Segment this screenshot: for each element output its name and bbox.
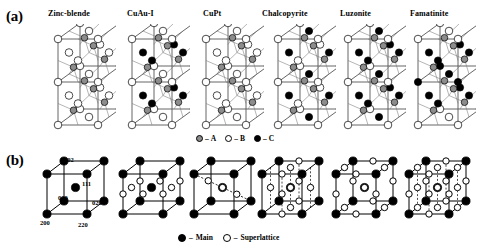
column-title-luzonite: Luzonite [340,9,371,18]
structure-cell-luzonite [336,24,406,134]
legend-a-item-b: – B [225,134,245,143]
column-title-chalcopyrite: Chalcopyrite [262,9,308,18]
reciprocal-cell-cuau-i [114,156,188,226]
structure-cell-chalcopyrite [266,24,336,134]
legend-b-label-main: Main [196,233,213,242]
miller-label-002: 002 [64,156,74,163]
legend-a-item-a: – A [196,134,216,143]
legend-a-item-c: – C [254,134,274,143]
miller-label-220: 220 [78,221,88,228]
legend-panel-a: – A – B – C [196,134,274,143]
legend-a-dash-c: – [263,134,267,143]
open-circle-icon [223,234,231,242]
miller-label-111: 111 [82,180,91,187]
panel-a-label: (a) [6,8,23,25]
structure-cell-cuau-i [120,24,190,134]
legend-a-label-a: A [211,134,216,143]
column-title-zinc-blende: Zinc-blende [48,9,90,18]
structure-cell-famatinite [406,24,476,134]
reciprocal-cell-luzonite [327,156,401,226]
legend-b-dash-superlattice: – [234,233,238,242]
black-filled-circle-icon [254,135,261,142]
reciprocal-cell-cupt [185,156,259,226]
miller-label-000: 000 [58,194,68,201]
column-title-famatinite: Famatinite [410,9,448,18]
legend-b-item-main: – Main [178,233,213,242]
panel-b-label: (b) [6,152,23,169]
reciprocal-cell-famatinite [400,156,474,226]
open-circle-icon [225,135,232,142]
gray-filled-circle-icon [196,135,203,142]
black-filled-circle-icon [178,234,186,242]
legend-panel-b: – Main – Superlattice [178,233,279,242]
legend-b-label-superlattice: Superlattice [241,233,280,242]
reciprocal-cell-zinc-blende [38,156,112,226]
miller-label-200: 200 [40,219,50,226]
legend-b-dash-main: – [189,233,193,242]
miller-label-020: 020 [92,199,102,206]
crystal-structure-figure: (a) Zinc-blende CuAu-I CuPt Chalcopyrite… [0,0,484,250]
legend-a-label-b: B [240,134,245,143]
column-title-cupt: CuPt [203,9,221,18]
legend-b-item-superlattice: – Superlattice [223,233,280,242]
structure-cell-cupt [194,24,264,134]
structure-cell-zinc-blende [46,24,116,134]
reciprocal-cell-chalcopyrite [253,156,327,226]
column-title-cuau-i: CuAu-I [127,9,154,18]
legend-a-dash-b: – [234,134,238,143]
legend-a-dash-a: – [205,134,209,143]
legend-a-label-c: C [269,134,274,143]
